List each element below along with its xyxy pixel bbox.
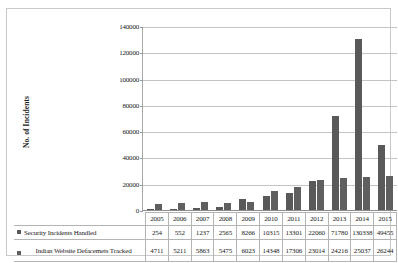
- chart-data-table-body: 2005200620072008200920102011201220132014…: [14, 213, 397, 262]
- table-cell-value: 49455: [374, 226, 397, 240]
- table-cell-value: 254: [146, 226, 169, 240]
- bar[interactable]: [216, 207, 223, 210]
- table-cell-value: 2565: [214, 226, 237, 240]
- table-header-year: 2010: [260, 213, 283, 226]
- bar[interactable]: [386, 176, 393, 210]
- bar[interactable]: [239, 199, 246, 210]
- chart-figure: No. of Incidents 02000040000600008000010…: [6, 8, 391, 256]
- bar[interactable]: [294, 187, 301, 210]
- bar[interactable]: [170, 209, 177, 210]
- bar[interactable]: [178, 203, 185, 210]
- legend-label: Security Incidents Handled: [24, 229, 96, 237]
- bar-group: [305, 27, 328, 210]
- bar[interactable]: [224, 203, 231, 210]
- y-axis-tick-label: 140000: [119, 23, 139, 31]
- table-cell-value: 22060: [305, 226, 328, 240]
- bar[interactable]: [147, 209, 154, 210]
- table-cell-value: 552: [168, 226, 191, 240]
- y-axis-title-container: No. of Incidents: [15, 39, 37, 204]
- legend-entry-wrap: Indian Website Defacemets Tracked: [17, 247, 145, 255]
- filled-square-icon: [17, 251, 21, 255]
- legend-entry[interactable]: Indian Website Defacemets Tracked: [14, 240, 146, 262]
- bar[interactable]: [286, 193, 293, 210]
- bar-group: [258, 27, 281, 210]
- table-cell-value: 13301: [282, 226, 305, 240]
- bar-group: [374, 27, 397, 210]
- bar-group: [282, 27, 305, 210]
- bar[interactable]: [363, 177, 370, 210]
- bar-group: [212, 27, 235, 210]
- y-axis-title: No. of Incidents: [22, 95, 31, 147]
- table-cell-value: 71780: [328, 226, 351, 240]
- bar-group: [235, 27, 258, 210]
- bar[interactable]: [247, 202, 254, 210]
- bar-group: [189, 27, 212, 210]
- table-header-year: 2005: [146, 213, 169, 226]
- table-corner-cell: [14, 213, 146, 226]
- y-axis-tick-label: 40000: [122, 154, 139, 162]
- legend-entry[interactable]: Security Incidents Handled: [14, 226, 146, 240]
- table-cell-value: 10315: [260, 226, 283, 240]
- table-header-year: 2009: [237, 213, 260, 226]
- table-row: Indian Website Defacemets Tracked4711521…: [14, 240, 397, 262]
- bar[interactable]: [193, 208, 200, 210]
- bar-groups-container: [143, 27, 397, 210]
- table-cell-value: 5863: [191, 240, 214, 262]
- table-cell-value: 14348: [260, 240, 283, 262]
- chart-data-table: 2005200620072008200920102011201220132014…: [14, 212, 397, 262]
- bar[interactable]: [332, 116, 339, 210]
- table-cell-value: 6023: [237, 240, 260, 262]
- legend-label: Indian Website Defacemets Tracked: [35, 247, 131, 255]
- table-cell-value: 8266: [237, 226, 260, 240]
- table-header-year: 2011: [282, 213, 305, 226]
- table-cell-value: 25037: [351, 240, 374, 262]
- table-row: Security Incidents Handled25455212372565…: [14, 226, 397, 240]
- table-cell-value: 26244: [374, 240, 397, 262]
- bar[interactable]: [340, 178, 347, 210]
- table-header-year: 2013: [328, 213, 351, 226]
- table-header-year: 2014: [351, 213, 374, 226]
- bar-group: [328, 27, 351, 210]
- y-axis-tick-label: 100000: [119, 76, 139, 84]
- table-header-year: 2015: [374, 213, 397, 226]
- y-axis-tick-label: 60000: [122, 128, 139, 136]
- table-header-year: 2007: [191, 213, 214, 226]
- table-cell-value: 1237: [191, 226, 214, 240]
- table-header-year: 2012: [305, 213, 328, 226]
- bar-group: [351, 27, 374, 210]
- table-cell-value: 130338: [351, 226, 374, 240]
- table-cell-value: 23014: [305, 240, 328, 262]
- table-cell-value: 5211: [168, 240, 191, 262]
- y-axis-tick-label: 120000: [119, 49, 139, 57]
- table-header-year: 2006: [168, 213, 191, 226]
- table-cell-value: 17306: [282, 240, 305, 262]
- bar[interactable]: [263, 196, 270, 210]
- bar-group: [166, 27, 189, 210]
- table-cell-value: 5475: [214, 240, 237, 262]
- bar[interactable]: [317, 180, 324, 210]
- plot-area: 020000400006000080000100000120000140000: [142, 27, 397, 211]
- bar[interactable]: [271, 191, 278, 210]
- bar[interactable]: [155, 204, 162, 210]
- table-cell-value: 4711: [146, 240, 169, 262]
- table-row-years: 2005200620072008200920102011201220132014…: [14, 213, 397, 226]
- table-cell-value: 24216: [328, 240, 351, 262]
- bar[interactable]: [378, 145, 385, 210]
- bar[interactable]: [309, 181, 316, 210]
- table-header-year: 2008: [214, 213, 237, 226]
- y-axis-tick-label: 80000: [122, 102, 139, 110]
- filled-square-icon: [17, 230, 21, 234]
- bar[interactable]: [355, 39, 362, 210]
- y-axis-tick-label: 20000: [122, 181, 139, 189]
- bar-group: [143, 27, 166, 210]
- bar[interactable]: [201, 202, 208, 210]
